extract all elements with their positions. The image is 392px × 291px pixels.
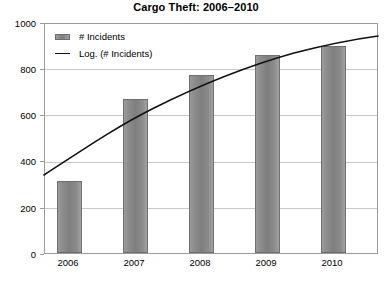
bar-2007 bbox=[123, 99, 148, 253]
y-tick-600: 600 bbox=[0, 111, 36, 121]
y-tick-400: 400 bbox=[0, 157, 36, 167]
x-tick-2008: 2008 bbox=[170, 258, 230, 268]
chart-title: Cargo Theft: 2006–2010 bbox=[0, 1, 392, 13]
y-tick-800: 800 bbox=[0, 65, 36, 75]
bar-2008 bbox=[189, 75, 214, 253]
chart-legend: # Incidents Log. (# Incidents) bbox=[55, 28, 205, 62]
x-tick-2010: 2010 bbox=[302, 258, 362, 268]
bar-2009 bbox=[255, 55, 280, 253]
legend-label-incidents: # Incidents bbox=[79, 32, 125, 42]
y-tick-200: 200 bbox=[0, 204, 36, 214]
y-tick-1000: 1000 bbox=[0, 19, 36, 29]
legend-item-incidents: # Incidents bbox=[55, 28, 205, 45]
y-tick-0: 0 bbox=[0, 250, 36, 260]
line-swatch-icon bbox=[55, 53, 70, 54]
bar-2006 bbox=[57, 181, 82, 253]
bar-swatch-icon bbox=[55, 34, 70, 40]
y-tick-mark-0 bbox=[40, 254, 44, 255]
bar-2010 bbox=[321, 46, 346, 253]
cargo-theft-chart: Cargo Theft: 2006–2010 1000 800 600 400 … bbox=[0, 0, 392, 291]
y-axis-labels: 1000 800 600 400 200 0 bbox=[0, 0, 40, 291]
legend-label-log-trend: Log. (# Incidents) bbox=[79, 49, 152, 59]
x-tick-2006: 2006 bbox=[38, 258, 98, 268]
legend-item-log-trend: Log. (# Incidents) bbox=[55, 45, 205, 62]
x-tick-2007: 2007 bbox=[104, 258, 164, 268]
x-tick-2009: 2009 bbox=[236, 258, 296, 268]
